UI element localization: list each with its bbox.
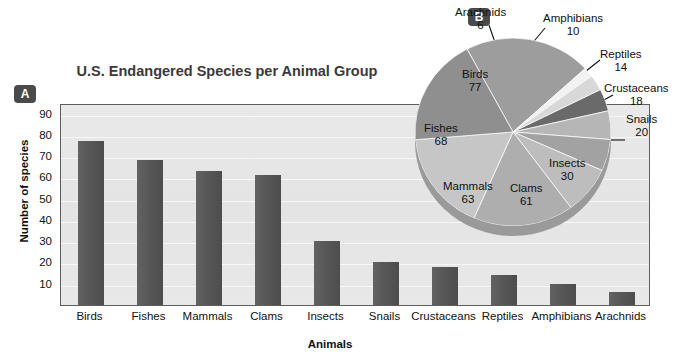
bar: [609, 292, 635, 305]
bar: [314, 241, 340, 305]
bar: [255, 175, 281, 305]
pie-slice-label: Mammals63: [443, 180, 493, 206]
pie-callout-label-value: 18: [604, 95, 669, 108]
y-axis-tick-label: 50: [26, 193, 52, 205]
bar: [373, 262, 399, 305]
figure-canvas: A U.S. Endangered Species per Animal Gro…: [0, 0, 680, 359]
bar: [491, 275, 517, 305]
pie-slice-label-name: Mammals: [443, 180, 493, 193]
y-axis-tick-label: 10: [26, 278, 52, 290]
pie-slice-label-value: 30: [549, 170, 585, 183]
pie-callout-label-name: Crustaceans: [604, 82, 669, 95]
bar: [432, 267, 458, 305]
bar: [196, 171, 222, 305]
pie-slice-label-value: 63: [443, 193, 493, 206]
pie-callout-label: Arachnids6: [455, 6, 506, 32]
bar: [78, 141, 104, 305]
bar-chart-x-axis-label: Animals: [250, 338, 410, 350]
pie-callout-label-name: Arachnids: [455, 6, 506, 19]
pie-slice-label-name: Birds: [462, 68, 488, 81]
pie-slice-label: Fishes68: [424, 122, 458, 148]
pie-slice-label-name: Insects: [549, 157, 585, 170]
y-axis-tick-label: 20: [26, 256, 52, 268]
y-axis-tick-label: 70: [26, 150, 52, 162]
y-axis-tick-label: 60: [26, 171, 52, 183]
y-axis-tick-label: 30: [26, 235, 52, 247]
pie-slice-label-name: Fishes: [424, 122, 458, 135]
pie-slice-label-value: 68: [424, 135, 458, 148]
pie-slice-label-value: 61: [510, 195, 543, 208]
pie-slice-label: Clams61: [510, 182, 543, 208]
y-axis-tick-label: 90: [26, 108, 52, 120]
pie-callout-label-value: 10: [543, 25, 603, 38]
pie-slice-label: Insects30: [549, 157, 585, 183]
y-axis-tick-label: 80: [26, 129, 52, 141]
pie-callout-label-value: 20: [626, 126, 657, 139]
pie-callout-label-value: 14: [600, 61, 642, 74]
pie-slice-label: Birds77: [462, 68, 488, 94]
bar-chart-title: U.S. Endangered Species per Animal Group: [62, 63, 392, 79]
pie-callout-label: Crustaceans18: [604, 82, 669, 108]
pie-callout-label-value: 6: [455, 19, 506, 32]
pie-callout-label: Snails20: [626, 113, 657, 139]
pie-slice-label-name: Clams: [510, 182, 543, 195]
pie-callout-label: Reptiles14: [600, 48, 642, 74]
pie-callout-label-name: Snails: [626, 113, 657, 126]
panel-a-badge: A: [14, 85, 36, 103]
pie-callout-label-name: Reptiles: [600, 48, 642, 61]
pie-slice-label-value: 77: [462, 81, 488, 94]
bar: [550, 284, 576, 305]
y-axis-tick-label: 40: [26, 214, 52, 226]
pie-callout-label: Amphibians10: [543, 12, 603, 38]
pie-callout-label-name: Amphibians: [543, 12, 603, 25]
bar: [137, 160, 163, 305]
x-axis-tick-label: Arachnids: [576, 310, 666, 322]
